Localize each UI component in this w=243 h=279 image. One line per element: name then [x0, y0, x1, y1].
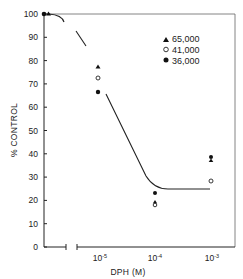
- y-tick-label: 20: [29, 195, 39, 205]
- x-tick-label: 10-5: [93, 253, 107, 263]
- y-tick-label: 60: [29, 102, 39, 112]
- legend-label: 65,000: [172, 34, 200, 44]
- chart-canvas: 0 10 20 30 40 50 60 70 80 90 100 % CONTR…: [0, 0, 243, 279]
- x-axis: [44, 244, 235, 250]
- y-axis-title: % CONTROL: [9, 103, 19, 157]
- data-point-filled-circle: [42, 12, 47, 17]
- y-tick-label: 80: [29, 56, 39, 66]
- y-tick-labels: 0 10 20 30 40 50 60 70 80 90 100: [24, 9, 38, 252]
- y-tick-label: 100: [24, 9, 38, 19]
- data-point-triangle: [96, 65, 101, 69]
- data-point-open-circle: [209, 179, 213, 183]
- data-point-filled-circle: [96, 90, 100, 94]
- legend-filled-circle-icon: [164, 58, 169, 63]
- data-point-open-circle: [153, 203, 157, 207]
- legend-triangle-icon: [163, 37, 169, 42]
- legend-label: 41,000: [172, 45, 200, 55]
- x-tick-labels: 10-5 10-4 10-3: [93, 253, 219, 263]
- x-tick-label: 10-3: [205, 253, 219, 263]
- y-tick-label: 70: [29, 79, 39, 89]
- legend-open-circle-icon: [164, 47, 169, 52]
- data-point-filled-circle: [209, 155, 213, 159]
- x-axis-title: DPH (M): [110, 267, 145, 277]
- data-point-triangle: [209, 159, 214, 163]
- x-tick-label: 10-4: [148, 253, 162, 263]
- y-tick-label: 30: [29, 172, 39, 182]
- legend: 65,000 41,000 36,000: [163, 34, 200, 66]
- legend-label: 36,000: [172, 56, 200, 66]
- series-41000: [96, 76, 213, 207]
- y-tick-label: 40: [29, 149, 39, 159]
- y-tick-label: 10: [29, 219, 39, 229]
- y-tick-label: 0: [33, 242, 38, 252]
- y-tick-label: 90: [29, 32, 39, 42]
- y-tick-label: 50: [29, 126, 39, 136]
- data-point-filled-circle: [153, 191, 157, 195]
- data-point-open-circle: [96, 76, 100, 80]
